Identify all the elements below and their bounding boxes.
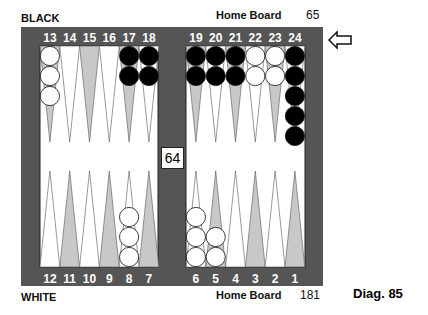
svg-text:4: 4 (232, 272, 239, 286)
black-checker (206, 66, 225, 85)
white-checker (246, 66, 265, 85)
white-checker (120, 227, 139, 246)
black-checker (120, 66, 139, 85)
white-checker (40, 86, 59, 105)
svg-text:23: 23 (268, 31, 282, 45)
svg-text:2: 2 (272, 272, 279, 286)
svg-text:15: 15 (83, 31, 97, 45)
black-checker (120, 46, 139, 65)
svg-text:24: 24 (288, 31, 302, 45)
black-checker (139, 46, 158, 65)
svg-text:14: 14 (63, 31, 77, 45)
svg-text:13: 13 (43, 31, 57, 45)
svg-text:20: 20 (209, 31, 223, 45)
black-checker (226, 46, 245, 65)
svg-text:3: 3 (252, 272, 259, 286)
white-checker (206, 247, 225, 266)
svg-text:18: 18 (142, 31, 156, 45)
white-checker (120, 247, 139, 266)
white-checker (120, 207, 139, 226)
svg-text:1: 1 (292, 272, 299, 286)
doubling-cube[interactable]: 64 (161, 147, 184, 169)
white-checker (266, 66, 285, 85)
svg-text:17: 17 (122, 31, 136, 45)
white-checker (206, 227, 225, 246)
white-checker (40, 46, 59, 65)
svg-text:16: 16 (103, 31, 117, 45)
white-checker (266, 46, 285, 65)
svg-text:9: 9 (106, 272, 113, 286)
black-checker (139, 66, 158, 85)
white-checker (186, 227, 205, 246)
white-checker (40, 66, 59, 85)
svg-text:8: 8 (126, 272, 133, 286)
white-checker (186, 207, 205, 226)
svg-text:11: 11 (63, 272, 76, 286)
svg-text:6: 6 (193, 272, 200, 286)
svg-text:19: 19 (189, 31, 203, 45)
svg-text:12: 12 (43, 272, 57, 286)
black-checker (186, 46, 205, 65)
white-checker (186, 247, 205, 266)
white-checker (246, 46, 265, 65)
svg-text:21: 21 (229, 31, 243, 45)
svg-text:10: 10 (83, 272, 97, 286)
black-checker (285, 66, 304, 85)
black-checker (186, 66, 205, 85)
black-checker (285, 106, 304, 125)
black-checker (285, 126, 304, 145)
black-checker (226, 66, 245, 85)
turn-arrow-icon (329, 32, 351, 48)
svg-text:7: 7 (146, 272, 153, 286)
black-checker (206, 46, 225, 65)
svg-text:5: 5 (212, 272, 219, 286)
black-checker (285, 46, 304, 65)
svg-text:22: 22 (249, 31, 263, 45)
backgammon-board: 131214111510169178187196205214223232241 (0, 0, 428, 315)
black-checker (285, 86, 304, 105)
